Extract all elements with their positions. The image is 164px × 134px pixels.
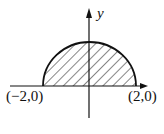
point-label-right: (2,0)	[128, 89, 157, 104]
diagram-canvas	[0, 0, 164, 134]
hatched-semicircle-region	[40, 40, 140, 88]
y-axis-label: y	[97, 6, 104, 21]
point-label-left: (−2,0)	[6, 89, 43, 104]
